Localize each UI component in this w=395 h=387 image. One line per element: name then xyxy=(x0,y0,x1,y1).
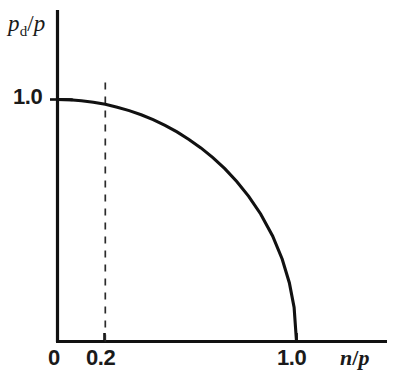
y-axis-title-numerator: p xyxy=(8,11,20,36)
y-axis-title-slash: / xyxy=(27,11,34,36)
x-axis-title: n/p xyxy=(340,347,369,369)
curve-pd-over-p xyxy=(58,100,297,342)
x-tick-label-origin: 0 xyxy=(48,347,60,369)
y-axis-title-denominator: p xyxy=(34,11,46,36)
x-tick-label-0.2: 0.2 xyxy=(86,347,115,369)
x-tick-label-1.0: 1.0 xyxy=(277,347,306,369)
x-axis-title-numerator: n xyxy=(340,345,352,370)
y-axis-title: pd/p xyxy=(8,12,46,39)
plot-canvas xyxy=(0,0,395,387)
x-axis-title-denominator: p xyxy=(358,345,369,370)
y-tick-label-1.0: 1.0 xyxy=(13,86,42,108)
chart-figure: pd/p n/p 1.0 0 0.2 1.0 xyxy=(0,0,395,387)
